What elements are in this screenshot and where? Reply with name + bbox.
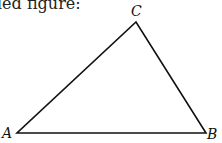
vertex-label-b: B <box>206 126 217 142</box>
triangle-abc <box>17 22 206 133</box>
vertex-label-c: C <box>131 3 142 19</box>
vertex-label-a: A <box>0 125 12 141</box>
triangle-diagram: A B C <box>0 0 222 143</box>
